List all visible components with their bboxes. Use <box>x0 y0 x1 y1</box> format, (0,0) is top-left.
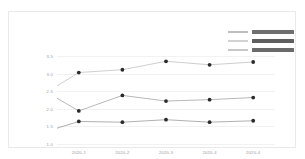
data-point-marker <box>121 120 125 124</box>
data-point-marker <box>164 59 168 63</box>
legend-label-redacted <box>252 48 294 51</box>
legend-line-swatch <box>228 49 248 50</box>
data-point-marker <box>164 99 168 103</box>
legend-item <box>228 38 298 44</box>
x-axis-tick-label: 2020-4 <box>246 150 260 155</box>
legend-line-swatch <box>228 40 248 41</box>
data-point-marker <box>208 63 212 67</box>
data-point-marker <box>251 119 255 123</box>
chart-legend <box>228 29 298 56</box>
legend-item <box>228 29 298 35</box>
chart-screenshot: 1.01.52.02.53.03.5 2020-12020-22020-3202… <box>0 0 305 159</box>
data-point-marker <box>208 120 212 124</box>
series-line <box>57 95 253 110</box>
series-lines <box>57 56 275 144</box>
chart-frame: 1.01.52.02.53.03.5 2020-12020-22020-3202… <box>8 11 296 148</box>
legend-line-swatch <box>228 31 248 32</box>
data-point-marker <box>208 98 212 102</box>
data-point-marker <box>251 60 255 64</box>
x-axis-tick-label: 2020-1 <box>72 150 86 155</box>
legend-item <box>228 47 298 53</box>
data-point-marker <box>251 96 255 100</box>
series-line <box>57 61 253 86</box>
y-axis-tick-label: 3.5 <box>47 54 53 59</box>
data-point-marker <box>77 120 81 124</box>
x-axis-tick-label: 2020-3 <box>159 150 173 155</box>
data-point-marker <box>164 118 168 122</box>
gridline <box>57 144 275 145</box>
x-axis-tick-label: 2020-2 <box>115 150 129 155</box>
data-point-marker <box>77 71 81 75</box>
plot-area: 1.01.52.02.53.03.5 2020-12020-22020-3202… <box>57 56 275 144</box>
data-point-marker <box>121 68 125 72</box>
y-axis-tick-label: 2.5 <box>47 89 53 94</box>
legend-label-redacted <box>252 39 294 42</box>
x-axis-tick-label: 2020-4 <box>202 150 216 155</box>
y-axis-tick-label: 1.5 <box>47 124 53 129</box>
series-line <box>57 120 253 128</box>
y-axis-tick-label: 3.0 <box>47 71 53 76</box>
data-point-marker <box>121 94 125 98</box>
data-point-marker <box>77 109 81 113</box>
y-axis-tick-label: 1.0 <box>47 142 53 147</box>
legend-label-redacted <box>252 30 294 33</box>
y-axis-tick-label: 2.0 <box>47 106 53 111</box>
